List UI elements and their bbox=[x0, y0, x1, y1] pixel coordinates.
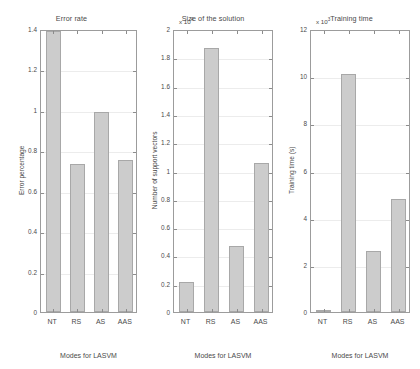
y-axis-tick bbox=[174, 229, 177, 230]
y-axis-tick bbox=[174, 173, 177, 174]
y-axis-exponent: x 104 bbox=[179, 19, 193, 25]
y-axis-tick bbox=[174, 59, 177, 60]
y-axis-tick bbox=[174, 201, 177, 202]
y-axis-tick-label: 0.2 bbox=[149, 281, 170, 287]
y-axis-tick-label: 0.4 bbox=[16, 229, 37, 235]
y-axis-tick-label: 0.4 bbox=[149, 253, 170, 259]
x-axis-tick bbox=[399, 309, 400, 312]
gridline bbox=[174, 116, 272, 117]
x-axis-tick bbox=[53, 31, 54, 34]
y-axis-tick-label: 0.8 bbox=[16, 148, 37, 154]
exponent-power: 3 bbox=[328, 17, 331, 22]
figure-canvas: Error rate Error percentage Modes for LA… bbox=[0, 0, 420, 369]
x-axis-tick bbox=[262, 31, 263, 34]
x-axis-tick bbox=[349, 31, 350, 34]
y-axis-tick bbox=[269, 201, 272, 202]
y-axis-tick-label: 0.2 bbox=[16, 269, 37, 275]
y-axis-tick bbox=[269, 286, 272, 287]
y-axis-tick bbox=[174, 144, 177, 145]
y-axis-tick-label: 1 bbox=[16, 108, 37, 114]
y-axis-tick bbox=[269, 88, 272, 89]
x-axis-tick-label: RS bbox=[334, 318, 362, 325]
x-axis-tick-label: RS bbox=[197, 318, 225, 325]
y-axis-tick bbox=[133, 152, 136, 153]
y-axis-tick bbox=[41, 193, 44, 194]
x-axis-tick bbox=[53, 309, 54, 312]
bar bbox=[118, 160, 133, 312]
x-axis-tick bbox=[77, 309, 78, 312]
x-axis-tick bbox=[212, 31, 213, 34]
exponent-power: 4 bbox=[191, 17, 194, 22]
x-axis-tick bbox=[374, 309, 375, 312]
bar bbox=[254, 163, 270, 312]
x-axis-tick-label: AAS bbox=[247, 318, 275, 325]
y-axis-tick bbox=[311, 173, 314, 174]
y-axis-tick bbox=[133, 71, 136, 72]
x-axis-tick bbox=[374, 31, 375, 34]
y-axis-tick bbox=[311, 78, 314, 79]
y-axis-tick-label: 1.4 bbox=[149, 112, 170, 118]
y-axis-tick bbox=[174, 257, 177, 258]
y-axis-tick bbox=[269, 257, 272, 258]
gridline bbox=[174, 144, 272, 145]
x-axis-tick bbox=[102, 309, 103, 312]
y-axis-tick-label: 0 bbox=[149, 310, 170, 316]
y-axis-tick-label: 10 bbox=[286, 74, 307, 80]
x-axis-label: Modes for LASVM bbox=[173, 352, 273, 359]
y-axis-tick-label: 2 bbox=[149, 27, 170, 33]
x-axis-tick bbox=[126, 31, 127, 34]
bar bbox=[179, 282, 195, 312]
y-axis-tick-label: 12 bbox=[286, 27, 307, 33]
y-axis-tick bbox=[406, 220, 409, 221]
x-axis-tick bbox=[324, 31, 325, 34]
y-axis-tick-label: 1 bbox=[149, 168, 170, 174]
plot-area bbox=[310, 30, 410, 313]
y-axis-tick bbox=[269, 173, 272, 174]
chart-title: Error rate bbox=[0, 14, 143, 23]
y-axis-tick-label: 1.4 bbox=[16, 27, 37, 33]
y-axis-tick-label: 0.6 bbox=[16, 189, 37, 195]
y-axis-tick bbox=[406, 125, 409, 126]
y-axis-tick bbox=[133, 193, 136, 194]
gridline bbox=[174, 88, 272, 89]
y-axis-tick bbox=[406, 267, 409, 268]
y-axis-tick-label: 1.2 bbox=[149, 140, 170, 146]
x-axis-tick bbox=[237, 31, 238, 34]
bar bbox=[46, 31, 61, 312]
y-axis-tick bbox=[41, 112, 44, 113]
y-axis-exponent: x 103 bbox=[316, 19, 330, 25]
y-axis-tick bbox=[41, 233, 44, 234]
gridline bbox=[311, 78, 409, 79]
y-axis-tick bbox=[269, 144, 272, 145]
y-axis-tick bbox=[311, 220, 314, 221]
y-axis-tick bbox=[174, 116, 177, 117]
y-axis-tick-label: 0 bbox=[286, 310, 307, 316]
x-axis-tick-label: AS bbox=[222, 318, 250, 325]
y-axis-tick-label: 2 bbox=[286, 263, 307, 269]
x-axis-label: Modes for LASVM bbox=[310, 352, 410, 359]
gridline bbox=[311, 125, 409, 126]
y-axis-tick bbox=[41, 274, 44, 275]
y-axis-tick-label: 6 bbox=[286, 168, 307, 174]
x-axis-tick bbox=[212, 309, 213, 312]
y-axis-tick-label: 0 bbox=[16, 310, 37, 316]
x-axis-tick-label: NT bbox=[309, 318, 337, 325]
x-axis-tick bbox=[262, 309, 263, 312]
y-axis-tick bbox=[269, 229, 272, 230]
x-axis-tick bbox=[399, 31, 400, 34]
y-axis-tick bbox=[311, 125, 314, 126]
y-axis-tick bbox=[311, 267, 314, 268]
x-axis-tick bbox=[349, 309, 350, 312]
chart-title: Training time bbox=[283, 14, 420, 23]
y-axis-tick-label: 1.8 bbox=[149, 55, 170, 61]
x-axis-tick-label: NT bbox=[172, 318, 200, 325]
x-axis-tick bbox=[102, 31, 103, 34]
bar bbox=[229, 246, 245, 312]
y-axis-tick bbox=[133, 274, 136, 275]
x-axis-tick bbox=[126, 309, 127, 312]
chart-title: Size of the solution bbox=[143, 14, 283, 23]
y-axis-tick-label: 0.6 bbox=[149, 225, 170, 231]
y-axis-tick bbox=[133, 233, 136, 234]
y-axis-tick bbox=[269, 116, 272, 117]
y-axis-tick-label: 0.8 bbox=[149, 197, 170, 203]
